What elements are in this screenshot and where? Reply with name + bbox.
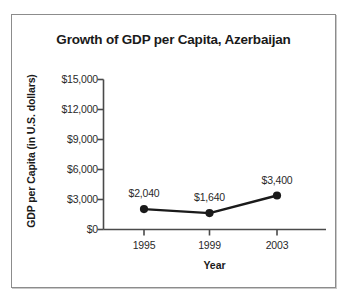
x-axis-title: Year	[103, 259, 326, 271]
data-point-labels: $2,040$1,640$3,400	[0, 0, 347, 297]
data-point-label: $2,040	[129, 187, 160, 199]
data-point-label: $3,400	[262, 174, 293, 186]
data-point-label: $1,640	[194, 191, 225, 203]
chart-figure: Growth of GDP per Capita, Azerbaijan GDP…	[0, 0, 347, 297]
